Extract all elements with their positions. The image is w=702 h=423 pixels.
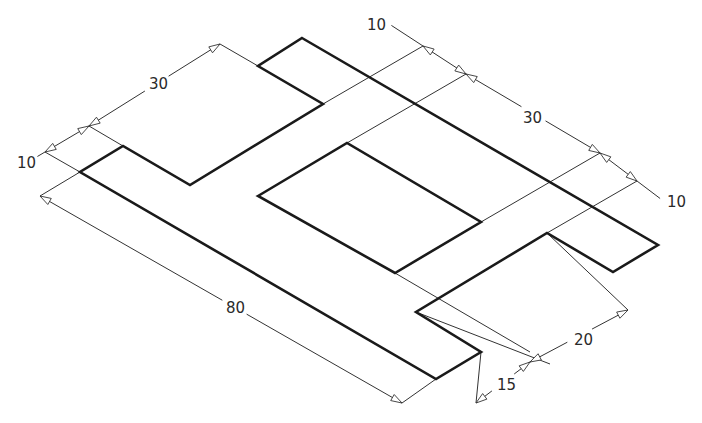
arrowhead-icon — [45, 143, 56, 152]
arrowhead-icon — [40, 196, 51, 204]
dimension-line-dim-80 — [247, 314, 402, 403]
extension-line — [323, 46, 423, 104]
extension-line — [220, 44, 258, 66]
extension-line — [347, 74, 466, 143]
arrowhead-icon — [617, 310, 628, 318]
dimension-label-30-right: 30 — [523, 109, 542, 127]
dimension-label-30-top-left: 30 — [149, 75, 168, 93]
dimension-label-20: 20 — [574, 331, 593, 349]
extension-lines — [40, 44, 637, 403]
dimension-line-dim-80 — [40, 196, 222, 300]
arrowhead-icon — [626, 172, 637, 181]
extension-line — [476, 352, 481, 403]
extension-line — [402, 379, 436, 403]
arrowhead-icon — [423, 46, 434, 55]
arrowhead-icon — [519, 362, 530, 371]
dimension-label-15: 15 — [497, 376, 516, 394]
extension-line — [40, 172, 80, 196]
arrowhead-icon — [466, 74, 477, 83]
extension-line — [89, 126, 123, 146]
dimension-label-10-right: 10 — [667, 193, 686, 211]
arrowhead-icon — [455, 65, 466, 74]
extension-line — [481, 153, 600, 222]
arrowhead-icon — [209, 44, 220, 53]
rectangular-hole-outline — [258, 143, 481, 273]
arrowhead-icon — [89, 117, 100, 126]
dimension-label-10-top-right: 10 — [367, 16, 386, 34]
extension-line — [416, 312, 550, 364]
dimension-label-80: 80 — [226, 299, 245, 317]
arrowhead-icon — [530, 354, 541, 362]
dimension-lines — [37, 25, 660, 403]
dimension-label-10-left: 10 — [17, 154, 36, 172]
part-drawing: 30 10 80 10 30 10 20 15 — [0, 0, 702, 423]
arrowhead-icon — [78, 126, 89, 135]
arrowhead-icon — [476, 394, 487, 403]
isometric-drawing-canvas: 30 10 80 10 30 10 20 15 — [0, 0, 702, 423]
extension-line — [45, 152, 80, 172]
arrowhead-icon — [600, 153, 611, 162]
arrowhead-icon — [391, 395, 402, 403]
arrowhead-icon — [589, 144, 600, 153]
